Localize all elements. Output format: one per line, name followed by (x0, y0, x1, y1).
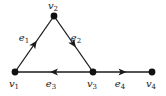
labels-layer: e1e2e3e4v1v2v3v4 (9, 0, 157, 91)
node-label-v4: v4 (146, 78, 157, 91)
node-label-v2: v2 (48, 0, 58, 13)
graph-canvas: e1e2e3e4v1v2v3v4 (0, 0, 166, 96)
node-label-v3: v3 (87, 78, 97, 91)
node-v4 (149, 69, 156, 76)
edge-label-e3: e3 (46, 78, 56, 91)
arrow-e1-icon (29, 39, 39, 50)
node-v1 (12, 69, 19, 76)
node-v3 (90, 69, 97, 76)
node-label-v1: v1 (9, 78, 19, 91)
edge-label-e4: e4 (115, 78, 126, 91)
node-v2 (51, 13, 58, 20)
directed-graph-diagram: e1e2e3e4v1v2v3v4 (0, 0, 166, 96)
edge-label-e1: e1 (19, 32, 29, 45)
